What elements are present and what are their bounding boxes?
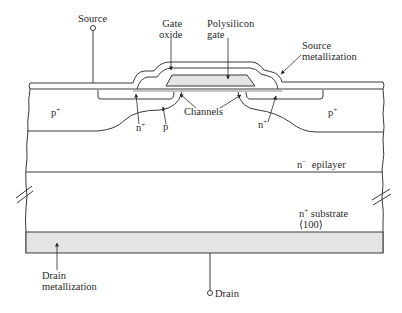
break-mark-left bbox=[16, 186, 33, 203]
label-polysilicon-gate: Polysilicon gate bbox=[207, 18, 254, 40]
n-plus-left-sup: + bbox=[141, 121, 145, 129]
label-epilayer: n− epilayer bbox=[297, 159, 346, 170]
label-poly-line2: gate bbox=[207, 29, 254, 40]
label-source-metallization: Source metallization bbox=[302, 40, 357, 62]
n-plus-right-sup: + bbox=[263, 118, 267, 126]
label-drain: Drain bbox=[215, 288, 239, 299]
label-drain-metallization: Drain metallization bbox=[42, 270, 97, 292]
label-channels: Channels bbox=[184, 106, 223, 117]
label-drain-metal-line1: Drain bbox=[42, 270, 97, 281]
label-gate-oxide-line1: Gate bbox=[159, 18, 182, 29]
source-terminal bbox=[91, 26, 96, 84]
drain-terminal bbox=[208, 253, 213, 296]
label-drain-metal-line2: metallization bbox=[42, 281, 97, 292]
p-plus-right-sup: + bbox=[333, 106, 337, 114]
label-p-plus-left: p+ bbox=[51, 107, 60, 118]
label-source: Source bbox=[78, 13, 107, 24]
source-metal-leader bbox=[281, 55, 301, 74]
label-poly-line1: Polysilicon bbox=[207, 18, 254, 29]
epilayer-text: epilayer bbox=[309, 159, 346, 170]
substrate-orientation: ⟨100⟩ bbox=[299, 219, 348, 230]
channel-right-leader bbox=[220, 95, 241, 108]
drain-metallization bbox=[26, 232, 383, 253]
epilayer-sup: − bbox=[302, 158, 306, 166]
substrate-text: substrate bbox=[311, 208, 348, 219]
n-plus-region-right bbox=[246, 90, 323, 99]
polysilicon-gate bbox=[166, 75, 255, 86]
break-mark-right bbox=[372, 189, 391, 205]
label-source-metal-line1: Source bbox=[302, 40, 357, 51]
left-edge bbox=[26, 89, 31, 253]
label-source-metal-line2: metallization bbox=[302, 51, 357, 62]
label-gate-oxide-line2: oxide bbox=[159, 29, 182, 40]
label-n-plus-left: n+ bbox=[136, 122, 145, 133]
label-substrate: n+ substrate ⟨100⟩ bbox=[299, 208, 348, 230]
right-edge bbox=[382, 89, 384, 253]
label-gate-oxide: Gate oxide bbox=[159, 18, 182, 40]
label-n-plus-right: n+ bbox=[258, 119, 267, 130]
label-p-plus-right: p+ bbox=[328, 107, 337, 118]
substrate-sup: + bbox=[304, 207, 308, 215]
label-p-body: p bbox=[163, 121, 168, 132]
n-plus-right-leader bbox=[268, 96, 276, 122]
p-plus-left-sup: + bbox=[56, 106, 60, 114]
